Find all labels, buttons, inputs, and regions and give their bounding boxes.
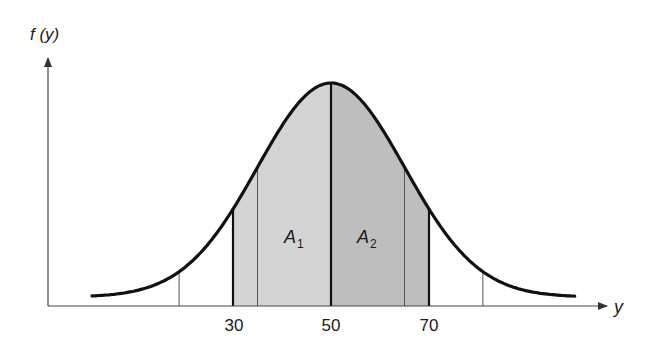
vertical-lines xyxy=(179,83,483,306)
x-tick-30: 30 xyxy=(225,316,244,335)
x-axis-label: y xyxy=(612,297,624,317)
svg-text:A: A xyxy=(283,227,296,247)
y-axis-label: f (y) xyxy=(30,25,59,44)
svg-text:2: 2 xyxy=(370,237,377,251)
normal-distribution-chart: f (y) y 30 50 70 A 1 A 2 xyxy=(0,0,659,355)
svg-text:1: 1 xyxy=(297,237,304,251)
svg-text:A: A xyxy=(356,227,369,247)
shaded-area-a1 xyxy=(233,83,331,306)
x-tick-50: 50 xyxy=(322,316,341,335)
x-tick-70: 70 xyxy=(420,316,439,335)
shaded-area-a2 xyxy=(331,83,429,306)
